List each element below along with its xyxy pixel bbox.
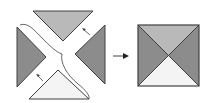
right-triangle (75, 25, 105, 84)
exploded-pieces (17, 11, 105, 99)
top-triangle (33, 11, 93, 41)
small-arrow-icon (82, 28, 90, 35)
diagram (0, 0, 209, 103)
assembled-square (138, 25, 199, 86)
left-triangle (17, 27, 46, 87)
bottom-triangle (29, 70, 89, 99)
small-arrow-icon (36, 74, 43, 81)
right-arrow-icon (113, 53, 129, 59)
